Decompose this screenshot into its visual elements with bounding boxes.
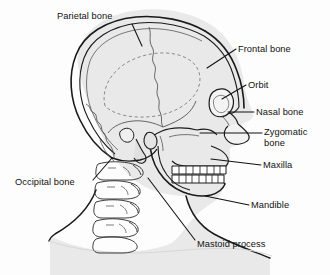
nasal-aperture xyxy=(224,124,249,144)
orbit-socket xyxy=(209,89,233,117)
label-occipital-bone: Occipital bone xyxy=(15,177,75,188)
label-mandible: Mandible xyxy=(251,200,289,211)
label-mastoid-process: Mastoid process xyxy=(197,239,265,250)
label-parietal-bone: Parietal bone xyxy=(57,11,112,22)
label-nasal-bone: Nasal bone xyxy=(256,107,304,118)
upper-teeth xyxy=(172,166,226,174)
label-maxilla: Maxilla xyxy=(263,160,292,171)
label-orbit: Orbit xyxy=(248,80,268,91)
lower-teeth xyxy=(172,175,224,183)
label-frontal-bone: Frontal bone xyxy=(238,44,291,55)
skull-anatomy-figure: Parietal bone Frontal bone Orbit Nasal b… xyxy=(0,0,330,275)
label-zygomatic-bone: Zygomatic bone xyxy=(264,127,307,150)
